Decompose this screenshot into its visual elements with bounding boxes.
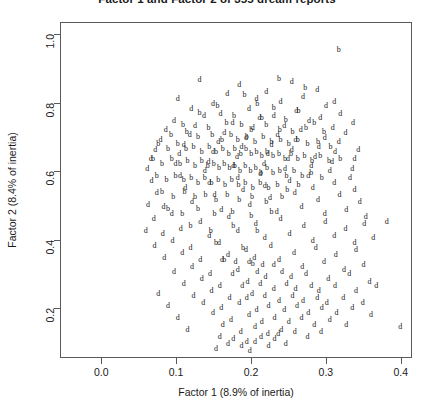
data-point-d: d	[150, 177, 154, 185]
data-point-d: d	[299, 126, 303, 134]
y-axis-tick-label: 0.8	[44, 103, 56, 118]
data-point-d: d	[170, 210, 174, 218]
data-point-d: d	[245, 338, 249, 346]
data-point-d: d	[260, 261, 264, 269]
data-point-b: b	[271, 152, 275, 160]
data-point-d: d	[217, 239, 221, 247]
data-point-d: d	[266, 342, 270, 350]
data-point-d: d	[369, 311, 373, 319]
data-point-d: d	[361, 299, 365, 307]
data-point-d: d	[326, 275, 330, 283]
data-point-d: d	[219, 110, 223, 118]
data-point-b: b	[231, 222, 235, 230]
data-point-d: d	[358, 198, 362, 206]
data-point-d: d	[371, 234, 375, 242]
data-point-b: b	[160, 160, 164, 168]
data-point-d: d	[325, 299, 329, 307]
data-point-d: d	[293, 328, 297, 336]
data-point-d: d	[353, 186, 357, 194]
data-point-b: b	[230, 176, 234, 184]
data-point-d: d	[272, 314, 276, 322]
data-point-b: b	[216, 176, 220, 184]
data-point-b: b	[312, 119, 316, 127]
data-point-d: d	[192, 292, 196, 300]
data-point-b: b	[296, 181, 300, 189]
data-point-d: d	[178, 172, 182, 180]
x-axis-tick	[251, 358, 252, 364]
data-point-b: b	[329, 143, 333, 151]
data-point-b: b	[223, 181, 227, 189]
data-point-b: b	[266, 184, 270, 192]
data-point-d: d	[244, 246, 248, 254]
data-point-b: b	[296, 155, 300, 163]
data-point-d: d	[332, 179, 336, 187]
data-point-d: d	[226, 251, 230, 259]
x-axis-tick	[176, 358, 177, 364]
data-point-d: d	[198, 256, 202, 264]
data-point-b: b	[255, 227, 259, 235]
data-point-b: b	[251, 260, 255, 268]
data-point-d: d	[316, 196, 320, 204]
data-point-d: d	[180, 249, 184, 257]
data-point-d: d	[228, 294, 232, 302]
data-point-d: d	[254, 220, 258, 228]
data-point-d: d	[190, 198, 194, 206]
data-point-d: d	[268, 194, 272, 202]
data-point-d: d	[362, 220, 366, 228]
data-point-d: d	[176, 314, 180, 322]
data-point-d: d	[299, 203, 303, 211]
data-point-d: d	[306, 309, 310, 317]
data-point-b: b	[275, 181, 279, 189]
data-point-d: d	[258, 280, 262, 288]
data-point-d: d	[253, 338, 257, 346]
data-point-b: b	[285, 186, 289, 194]
data-point-b: b	[166, 145, 170, 153]
data-point-d: d	[225, 90, 229, 98]
data-point-d: d	[227, 213, 231, 221]
data-point-b: b	[280, 193, 284, 201]
data-point-d: d	[255, 268, 259, 276]
x-axis-tick	[101, 358, 102, 364]
data-point-d: d	[241, 186, 245, 194]
x-axis-tick-label: 0.4	[393, 366, 408, 378]
data-point-d: d	[272, 261, 276, 269]
data-point-d: d	[276, 330, 280, 338]
data-point-d: d	[323, 218, 327, 226]
data-point-d: d	[190, 263, 194, 271]
data-point-d: d	[219, 206, 223, 214]
data-point-d: d	[218, 282, 222, 290]
data-point-d: d	[247, 105, 251, 113]
data-point-d: d	[314, 244, 318, 252]
data-point-d: d	[368, 278, 372, 286]
data-point-b: b	[302, 152, 306, 160]
x-axis-tick-label: 0.2	[244, 366, 259, 378]
data-point-d: d	[236, 266, 240, 274]
data-point-d: d	[207, 179, 211, 187]
data-point-d: d	[247, 258, 251, 266]
scatter-plot-figure: Factor 1 and Factor 2 of 355 dream repor…	[0, 0, 434, 413]
data-point-d: d	[306, 172, 310, 180]
data-point-d: d	[174, 160, 178, 168]
y-axis-tick-label: 0.6	[44, 171, 56, 186]
data-point-b: b	[204, 191, 208, 199]
data-point-d: d	[146, 201, 150, 209]
data-point-b: b	[243, 162, 247, 170]
data-point-b: b	[253, 138, 257, 146]
data-point-b: b	[242, 91, 246, 99]
data-point-b: b	[222, 160, 226, 168]
data-point-d: d	[287, 177, 291, 185]
data-point-d: d	[277, 256, 281, 264]
data-point-d: d	[356, 146, 360, 154]
data-point-b: b	[249, 212, 253, 220]
data-point-d: d	[344, 129, 348, 137]
data-point-d: d	[219, 304, 223, 312]
data-point-d: d	[172, 117, 176, 125]
data-point-d: d	[244, 134, 248, 142]
data-point-d: d	[269, 141, 273, 149]
data-point-d: d	[251, 124, 255, 132]
data-point-d: d	[263, 292, 267, 300]
data-point-d: d	[237, 81, 241, 89]
data-point-d: d	[331, 124, 335, 132]
data-point-d: d	[275, 131, 279, 139]
data-point-b: b	[198, 109, 202, 117]
